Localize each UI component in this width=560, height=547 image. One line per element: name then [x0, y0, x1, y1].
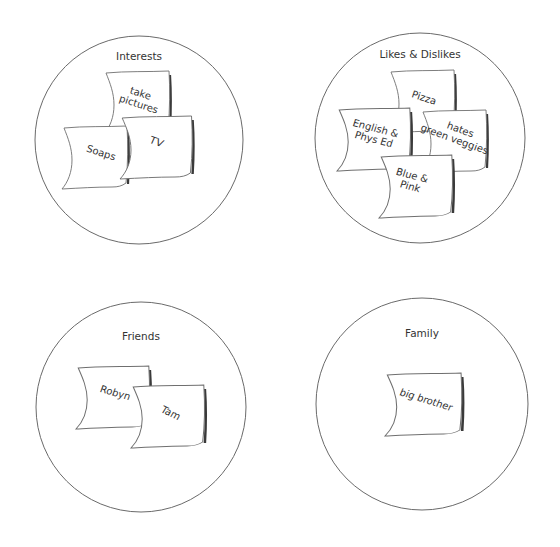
group-friends: Friends Robyn Tam — [36, 302, 246, 512]
sticky-note[interactable]: Soaps — [62, 126, 129, 189]
sticky-note[interactable]: Blue & Pink — [379, 155, 454, 218]
group-title: Friends — [122, 330, 160, 342]
group-likes-dislikes: Likes & Dislikes Pizza English & Phys Ed… — [315, 33, 525, 243]
diagram-canvas: Interests take pictures Soaps TV Likes &… — [0, 0, 560, 547]
group-interests: Interests take pictures Soaps TV — [35, 36, 243, 244]
sticky-note[interactable]: Tam — [131, 385, 206, 448]
sticky-note[interactable]: TV — [120, 116, 193, 179]
group-title: Family — [405, 327, 439, 339]
sticky-note[interactable]: big brother — [385, 373, 463, 436]
group-title: Interests — [116, 50, 162, 62]
group-title: Likes & Dislikes — [379, 48, 460, 60]
group-family: Family big brother — [316, 298, 528, 510]
